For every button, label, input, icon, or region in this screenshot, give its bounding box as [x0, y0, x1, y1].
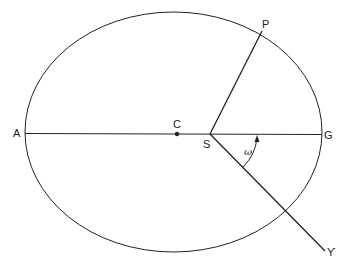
label-c: C — [173, 118, 181, 130]
radius-vector-sp — [210, 31, 262, 134]
arrowhead-icon — [255, 135, 260, 142]
label-vernal-equinox: ϒ — [327, 246, 336, 258]
orbit-ellipse — [25, 12, 322, 252]
label-g: G — [324, 129, 333, 141]
label-omega: ω — [244, 146, 252, 157]
major-axis-line — [25, 134, 322, 135]
label-a: A — [13, 127, 21, 139]
label-s: S — [203, 138, 210, 150]
label-p: P — [262, 18, 269, 30]
orbit-diagram: A C S G P ϒ ω — [0, 0, 345, 265]
center-point-c — [175, 132, 179, 136]
equinox-line-st — [210, 134, 325, 251]
